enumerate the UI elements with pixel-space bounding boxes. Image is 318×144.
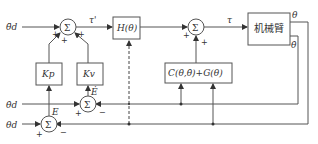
- junction-dot: [128, 123, 131, 126]
- tau-prime-label: τ': [89, 15, 96, 25]
- svg-text:C(θ,θ̇)+G(θ): C(θ,θ̇)+G(θ): [168, 68, 223, 78]
- robot-arm-block: 机械臂: [248, 13, 290, 45]
- svg-text:机械臂: 机械臂: [254, 22, 284, 34]
- error-dot-label: Ė: [90, 86, 98, 97]
- svg-text:Σ: Σ: [192, 23, 198, 33]
- junction-dot: [180, 103, 183, 106]
- svg-text:Σ: Σ: [84, 100, 90, 110]
- junction-dot: [128, 103, 130, 105]
- sum-junction-3: Σ: [80, 96, 96, 112]
- arrowhead: [126, 40, 132, 46]
- svg-text:Σ: Σ: [64, 23, 70, 33]
- sign-plus: +: [201, 38, 208, 47]
- sign-plus: +: [78, 30, 85, 39]
- sum-junction-2: Σ: [188, 19, 204, 35]
- kp-block: Kp: [36, 63, 62, 85]
- sum-junction-4: Σ: [41, 116, 57, 132]
- svg-text:H(θ): H(θ): [116, 23, 138, 33]
- svg-text:Kv: Kv: [82, 69, 95, 79]
- theta-label: θ: [292, 10, 298, 20]
- input-pos-label: θd: [6, 120, 17, 130]
- block-diagram: θ̈d Σ + + + τ' H(θ) Σ + + τ 机械臂 θ θ̇ C(θ…: [0, 0, 318, 144]
- sign-plus: +: [183, 31, 190, 40]
- svg-text:Kp: Kp: [41, 69, 55, 79]
- sign-minus: −: [60, 128, 67, 137]
- sign-plus: +: [75, 109, 82, 118]
- junction-dot: [212, 123, 215, 126]
- input-vel-label: θ̇d: [6, 100, 17, 110]
- coriolis-gravity-block: C(θ,θ̇)+G(θ): [165, 63, 232, 83]
- svg-text:Σ: Σ: [45, 120, 51, 130]
- error-label: E: [51, 107, 59, 117]
- inertia-block: H(θ): [113, 17, 140, 39]
- sum-junction-1: Σ: [60, 19, 76, 35]
- tau-label: τ: [227, 15, 233, 25]
- sign-minus: −: [99, 108, 106, 117]
- theta-dot-label: θ̇: [291, 40, 297, 50]
- input-accel-label: θ̈d: [6, 22, 17, 32]
- kv-block: Kv: [77, 63, 103, 85]
- sign-plus: +: [61, 36, 68, 45]
- sign-plus: +: [36, 130, 43, 139]
